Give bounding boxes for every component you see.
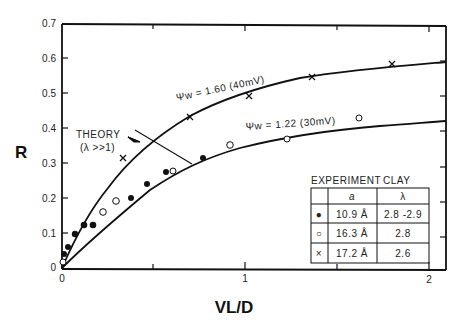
y-axis-ticks: [62, 24, 446, 270]
legend-a-value: 17.2 Å: [336, 247, 368, 259]
legend-title-experiment: EXPERIMENT: [311, 175, 381, 186]
plot-frame: [62, 24, 446, 270]
y-tick-label: 0.7: [42, 18, 56, 29]
legend-table: EXPERIMENT CLAY a λ ● 10.9 Å 2.8 -2.9 ○ …: [311, 175, 429, 263]
theory-sublabel: (λ >>1): [80, 142, 115, 153]
legend-symbol-cross: ×: [316, 248, 322, 259]
y-tick-label: 0.1: [42, 228, 56, 239]
legend-lambda-value: 2.8 -2.9: [384, 209, 422, 220]
y-tick-label: 0.3: [42, 158, 56, 169]
legend-lambda-value: 2.6: [395, 248, 410, 259]
y-tick-labels: 0.7 0.6 0.5 0.4 0.3 0.2 0.1 0: [42, 18, 56, 273]
legend-symbol-filled-circle: ●: [316, 209, 323, 220]
y-tick-label: 0.2: [42, 193, 56, 204]
y-tick-label: 0: [50, 262, 56, 273]
x-tick-label: 2: [426, 274, 432, 285]
legend-col-lambda: λ: [400, 191, 406, 202]
y-axis-title: R: [15, 143, 27, 162]
x-tick-label: 1: [242, 273, 248, 284]
x-axis-title: VL/D: [215, 298, 254, 317]
x-tick-label: 0: [59, 273, 65, 284]
curve-label-lower: Ψw = 1.22 (30mV): [245, 115, 336, 132]
chart-canvas: 0.7 0.6 0.5 0.4 0.3 0.2 0.1 0 0 1 2 R VL…: [0, 0, 465, 332]
theory-curve-lower: [62, 121, 446, 268]
legend-col-a: a: [349, 191, 355, 202]
legend-symbol-open-circle: ○: [316, 228, 323, 239]
y-tick-label: 0.6: [42, 53, 56, 64]
theory-curve-upper: [62, 62, 446, 268]
y-tick-label: 0.5: [42, 88, 56, 99]
legend-title-clay: CLAY: [383, 175, 410, 186]
legend-lambda-value: 2.8: [395, 228, 410, 239]
x-tick-labels: 0 1 2: [59, 273, 432, 285]
theory-label: THEORY: [76, 129, 121, 140]
y-tick-label: 0.4: [42, 123, 56, 134]
legend-a-value: 16.3 Å: [336, 227, 368, 239]
legend-a-value: 10.9 Å: [336, 208, 368, 220]
